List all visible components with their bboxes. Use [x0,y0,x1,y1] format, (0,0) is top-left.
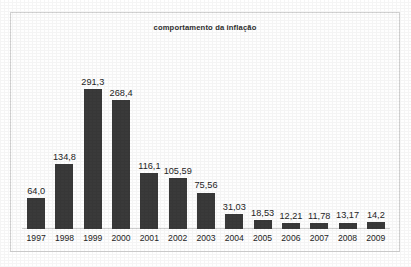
bar-value-label: 31,03 [223,203,246,212]
x-tick-1997: 1997 [22,233,50,243]
x-tick-2001: 2001 [135,233,163,243]
x-tick-2005: 2005 [248,233,276,243]
bar-2009: 14,2 [367,47,385,229]
x-tick-2008: 2008 [333,233,361,243]
bar-value-label: 13,17 [336,211,359,220]
bar-value-label: 14,2 [367,211,385,220]
x-tick-2000: 2000 [107,233,135,243]
x-tick-1999: 1999 [79,233,107,243]
bar-1997: 64,0 [27,47,45,229]
bar-rect [310,223,328,229]
bar-rect [55,164,73,229]
x-tick-1998: 1998 [50,233,78,243]
bar-rect [254,220,272,229]
bar-2006: 12,21 [282,47,300,229]
bar-rect [339,223,357,229]
bar-2001: 116,1 [140,47,158,229]
x-tick-2009: 2009 [362,233,390,243]
bar-rect [140,173,158,229]
bar-value-label: 268,4 [110,89,133,98]
bar-value-label: 11,78 [308,212,330,221]
bar-value-label: 12,21 [279,212,302,221]
plot-area: 64,0134,8291,3268,4116,1105,5975,5631,03… [22,47,390,229]
x-tick-2006: 2006 [277,233,305,243]
bar-2005: 18,53 [254,47,272,229]
bar-2008: 13,17 [339,47,357,229]
x-tick-2007: 2007 [305,233,333,243]
chart-title: comportamento da inflação [11,23,399,32]
x-tick-2004: 2004 [220,233,248,243]
x-axis-tick-labels: 1997199819992000200120022003200420052006… [22,233,390,249]
bar-rect [27,198,45,229]
bar-2000: 268,4 [112,47,130,229]
bar-1998: 134,8 [55,47,73,229]
bar-value-label: 18,53 [251,209,274,218]
bar-value-label: 105,59 [164,167,192,176]
bar-rect [197,193,215,229]
bar-value-label: 75,56 [195,181,218,190]
bar-rect [112,100,130,229]
bar-2004: 31,03 [225,47,243,229]
bar-rect [282,223,300,229]
x-tick-2002: 2002 [164,233,192,243]
bar-2003: 75,56 [197,47,215,229]
bar-value-label: 291,3 [81,78,104,87]
bar-value-label: 116,1 [138,162,160,171]
bar-value-label: 134,8 [53,153,76,162]
bar-2007: 11,78 [310,47,328,229]
bar-2002: 105,59 [169,47,187,229]
bar-value-label: 64,0 [27,187,45,196]
bar-rect [225,214,243,229]
chart-frame: comportamento da inflação 64,0134,8291,3… [10,12,400,252]
bar-rect [169,178,187,229]
bar-rect [84,89,102,229]
bar-rect [367,222,385,229]
x-tick-2003: 2003 [192,233,220,243]
bar-1999: 291,3 [84,47,102,229]
